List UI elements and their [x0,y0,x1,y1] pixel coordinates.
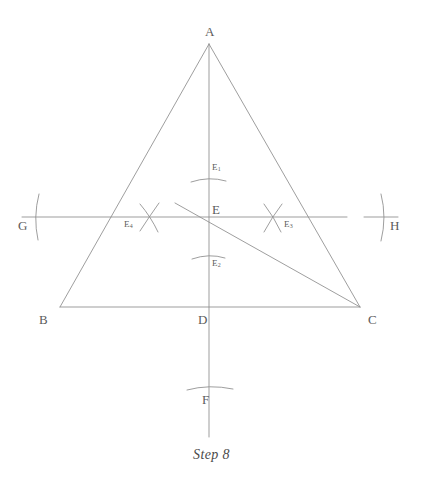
label-E1-sub: 1 [218,166,221,172]
segment-EC [175,203,360,307]
arc-F [187,387,233,390]
segment-AB [60,44,209,307]
label-B: B [39,313,48,326]
label-G: G [18,219,28,232]
label-E1: E1 [212,163,221,173]
construction-drawing [0,0,423,484]
figure-caption: Step 8 [0,447,423,463]
label-A: A [205,25,215,38]
label-E3: E3 [284,220,293,230]
arc-E1 [191,179,226,182]
arc-H [381,194,384,241]
label-E2-sub: 2 [218,262,221,268]
segment-AC [209,44,360,307]
label-E4-sub: 4 [130,223,133,229]
label-E2: E2 [212,259,221,269]
label-E3-sub: 3 [290,223,293,229]
geometry-figure: A B C D E F G H E1 E2 E3 E4 Step 8 [0,0,423,484]
label-F: F [202,393,209,406]
label-E4: E4 [124,220,133,230]
label-H: H [390,219,400,232]
label-C: C [368,313,377,326]
label-E: E [212,203,220,216]
label-D: D [198,313,208,326]
